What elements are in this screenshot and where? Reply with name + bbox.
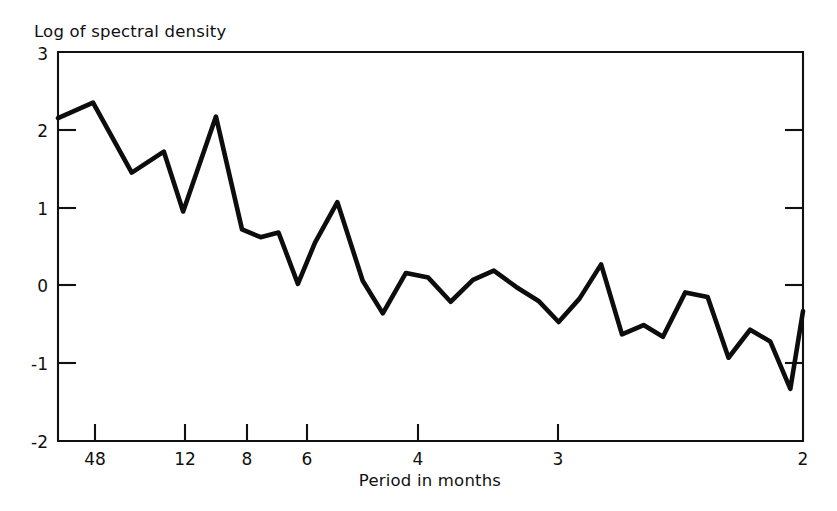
x-tick-label-2: 2 xyxy=(798,449,809,469)
y-tick-label-0: 0 xyxy=(37,276,48,296)
x-tick-label-4: 4 xyxy=(413,449,424,469)
y-tick-label-2: 2 xyxy=(37,121,48,141)
y-axis-title: Log of spectral density xyxy=(34,22,226,41)
x-tick-label-6: 6 xyxy=(302,449,313,469)
y-tick-label-neg2: -2 xyxy=(31,432,48,452)
x-axis-title: Period in months xyxy=(359,471,501,490)
x-tick-label-8: 8 xyxy=(242,449,253,469)
y-tick-label-neg1: -1 xyxy=(31,354,48,374)
x-tick-label-48: 48 xyxy=(84,449,106,469)
x-tick-label-12: 12 xyxy=(174,449,196,469)
plot-frame xyxy=(58,52,803,441)
spectral-density-series xyxy=(58,103,803,389)
x-tick-label-3: 3 xyxy=(553,449,564,469)
spectral-density-chart: 3 2 1 0 -1 -2 48 12 8 6 4 3 2 Log of spe… xyxy=(0,0,837,511)
figure-canvas: 3 2 1 0 -1 -2 48 12 8 6 4 3 2 Log of spe… xyxy=(0,0,837,511)
y-tick-label-1: 1 xyxy=(37,199,48,219)
y-tick-label-3: 3 xyxy=(37,44,48,64)
x-tick-marks xyxy=(95,424,558,441)
